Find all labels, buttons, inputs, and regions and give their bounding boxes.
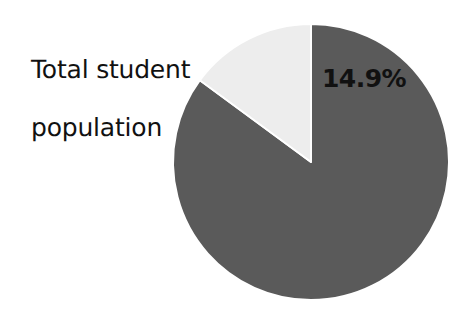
pie-chart-svg bbox=[0, 0, 473, 315]
pie-chart bbox=[0, 0, 473, 315]
pie-slice-group bbox=[173, 24, 449, 300]
chart-canvas: Total student population 14.9% bbox=[0, 0, 473, 315]
